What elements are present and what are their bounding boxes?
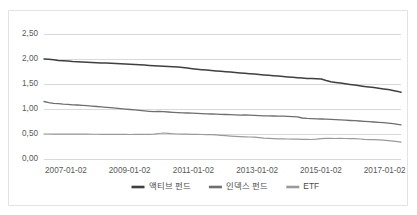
y-axis-tick-label: 1,50 <box>22 79 38 88</box>
chart-legend: 액티브 펀드인덱스 펀드ETF <box>132 181 320 191</box>
y-axis-tick-label: 2,00 <box>22 54 38 63</box>
x-axis-tick-labels: 2007-01-022009-01-022011-01-022013-01-02… <box>45 166 406 175</box>
x-axis-tick-label: 2015-01-02 <box>300 166 342 175</box>
legend-item-label[interactable]: 인덱스 펀드 <box>226 181 268 191</box>
y-axis-tick-label: 0,00 <box>22 154 38 163</box>
y-axis-tick-label: 1,00 <box>22 104 38 113</box>
series-line <box>44 102 401 125</box>
legend-item-label[interactable]: ETF <box>303 181 319 191</box>
series-lines <box>44 59 401 142</box>
x-axis-tick-label: 2017-01-02 <box>364 166 406 175</box>
y-axis-tick-label: 0,50 <box>22 129 38 138</box>
line-chart: 2,502,001,501,000,500,00 2007-01-022009-… <box>9 11 409 207</box>
chart-card: 2,502,001,501,000,500,00 2007-01-022009-… <box>8 10 408 206</box>
x-axis-tick-label: 2011-01-02 <box>173 166 215 175</box>
x-axis-tick-label: 2009-01-02 <box>109 166 151 175</box>
y-axis-tick-labels: 2,502,001,501,000,500,00 <box>22 29 38 163</box>
gridlines <box>44 35 401 160</box>
chart-canvas: 2,502,001,501,000,500,00 2007-01-022009-… <box>9 11 409 207</box>
x-axis-tick-label: 2007-01-02 <box>45 166 87 175</box>
x-axis-tick-label: 2013-01-02 <box>236 166 278 175</box>
series-line <box>44 59 401 92</box>
legend-item-label[interactable]: 액티브 펀드 <box>149 181 191 191</box>
y-axis-tick-label: 2,50 <box>22 29 38 38</box>
